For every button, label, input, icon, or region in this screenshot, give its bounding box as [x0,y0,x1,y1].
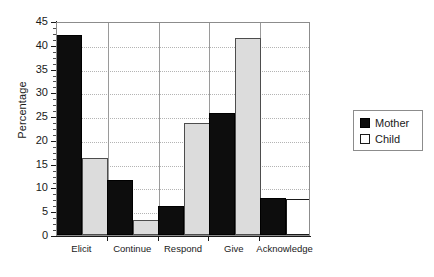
bar-mother-elicit [56,35,82,235]
gridline [57,71,309,72]
y-tick-minor [53,206,56,207]
y-tick-minor [53,40,56,41]
legend-swatch-child [360,134,370,144]
x-tick-label-elicit: Elicit [71,243,91,254]
gridline [57,94,309,95]
x-tick-mark [208,237,209,241]
legend: Mother Child [353,110,423,151]
y-tick-minor [53,129,56,130]
y-tick-minor [53,171,56,172]
y-tick-minor [53,99,56,100]
x-tick-mark [259,237,260,241]
bar-mother-acknowledge [260,198,286,235]
y-tick-minor [53,81,56,82]
legend-swatch-mother [360,118,370,128]
x-tick-label-acknowledge: Acknowledge [256,243,313,254]
x-tick-label-respond: Respond [164,243,202,254]
y-tick-minor [53,177,56,178]
y-tick-minor [53,111,56,112]
y-tick-mark [51,165,56,166]
y-tick-minor [53,135,56,136]
bar-mother-give [209,113,235,235]
y-tick-minor [53,194,56,195]
y-tick-label: 15 [36,158,48,170]
y-tick-minor [53,200,56,201]
legend-label-mother: Mother [375,117,409,129]
gridline [57,47,309,48]
legend-label-child: Child [375,133,400,145]
y-tick-minor [53,105,56,106]
y-tick-minor [53,76,56,77]
legend-item-mother: Mother [360,115,422,131]
y-tick-minor [53,183,56,184]
y-tick-minor [53,224,56,225]
x-tick-mark [158,237,159,241]
bar-child-continue [133,220,159,235]
y-tick-mark [51,70,56,71]
y-tick-minor [53,64,56,65]
y-tick-minor [53,58,56,59]
gridline [57,118,309,119]
y-tick-minor [53,28,56,29]
y-tick-mark [51,117,56,118]
group-separator [159,23,160,235]
y-tick-label: 10 [36,181,48,193]
y-tick-mark [51,236,56,237]
legend-item-child: Child [360,131,422,147]
x-tick-label-continue: Continue [113,243,151,254]
y-tick-label: 0 [42,229,48,241]
y-tick-label: 45 [36,15,48,27]
y-tick-mark [51,46,56,47]
y-tick-minor [53,34,56,35]
y-tick-label: 25 [36,110,48,122]
bar-mother-respond [158,206,184,235]
y-axis-title: Percentage [16,55,28,165]
y-tick-label: 40 [36,39,48,51]
x-tick-label-give: Give [224,243,244,254]
y-tick-minor [53,230,56,231]
bar-chart-figure: Percentage 051015202530354045 ElicitCont… [0,0,434,277]
y-tick-minor [53,52,56,53]
y-tick-minor [53,153,56,154]
bar-child-acknowledge [286,199,310,235]
y-tick-label: 5 [42,205,48,217]
y-tick-minor [53,159,56,160]
y-tick-mark [51,188,56,189]
y-tick-minor [53,147,56,148]
y-tick-mark [51,212,56,213]
y-tick-minor [53,87,56,88]
y-tick-label: 30 [36,86,48,98]
y-tick-minor [53,123,56,124]
plot-area [56,22,310,236]
x-axis-spine [55,236,311,237]
y-tick-label: 35 [36,63,48,75]
y-tick-mark [51,93,56,94]
bar-child-give [235,38,261,235]
y-tick-label: 20 [36,134,48,146]
x-tick-mark [107,237,108,241]
gridline [57,142,309,143]
bar-mother-continue [107,180,133,235]
y-tick-minor [53,218,56,219]
y-tick-mark [51,141,56,142]
bar-child-elicit [82,158,108,235]
bar-child-respond [184,123,210,235]
y-tick-mark [51,22,56,23]
